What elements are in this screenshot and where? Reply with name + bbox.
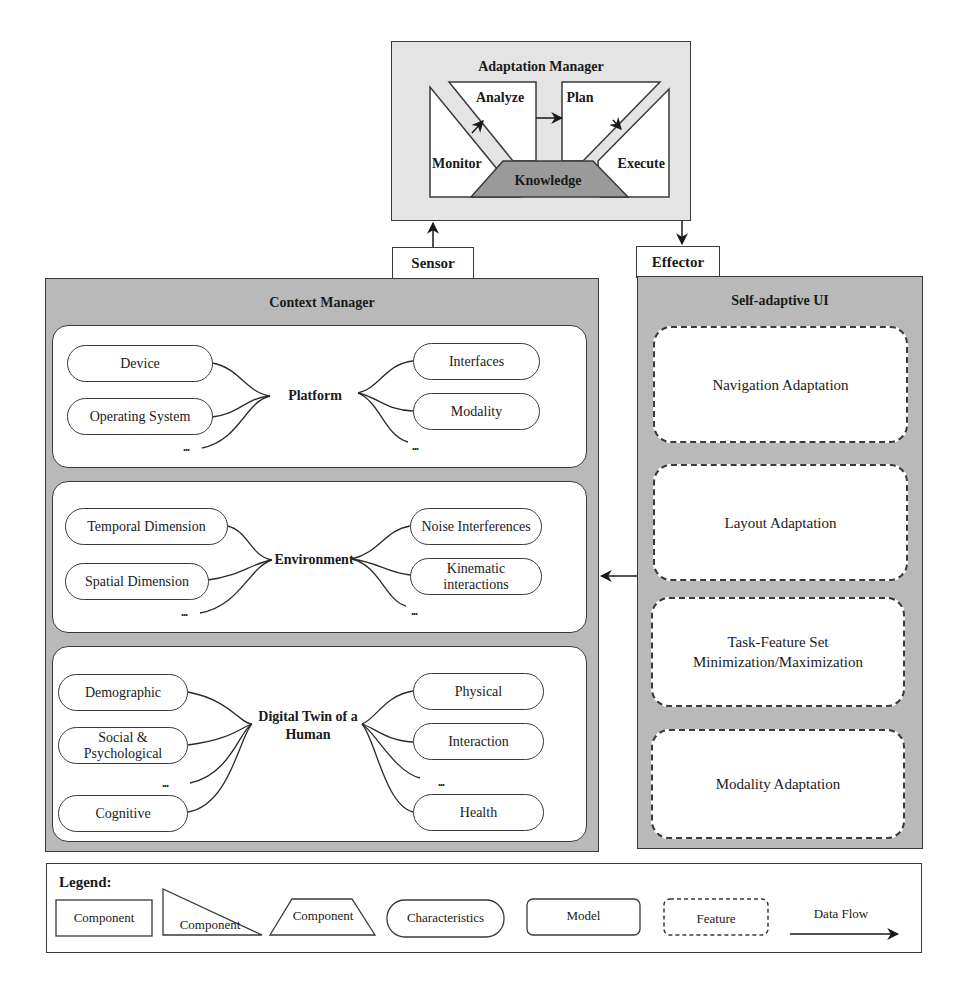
characteristic-operating-system: Operating System bbox=[67, 398, 213, 435]
digital-twin-hub: Digital Twin of a Human bbox=[254, 708, 362, 744]
legend-characteristics-label: Characteristics bbox=[387, 910, 504, 926]
characteristic-kinematic-interactions: Kinematic interactions bbox=[410, 558, 542, 595]
characteristic-interfaces: Interfaces bbox=[413, 343, 540, 380]
characteristic-temporal-dimension: Temporal Dimension bbox=[65, 508, 228, 545]
legend-component-triangle-label: Component bbox=[160, 917, 260, 933]
sensor-box: Sensor bbox=[392, 247, 474, 279]
characteristic-physical: Physical bbox=[413, 673, 544, 710]
legend-component-rect-label: Component bbox=[56, 910, 152, 926]
legend-feature-label: Feature bbox=[664, 911, 768, 927]
platform-more-left: ... bbox=[183, 440, 189, 455]
adaptation-manager-title: Adaptation Manager bbox=[478, 59, 604, 74]
monitor-label: Monitor bbox=[432, 156, 482, 171]
self-adaptive-ui-title: Self-adaptive UI bbox=[638, 293, 922, 309]
analyze-label: Analyze bbox=[476, 90, 524, 105]
context-manager-title: Context Manager bbox=[46, 295, 598, 311]
feature-layout-adaptation: Layout Adaptation bbox=[653, 464, 908, 581]
characteristic-social-psychological: Social & Psychological bbox=[58, 727, 188, 764]
platform-hub: Platform bbox=[272, 387, 358, 405]
plan-label: Plan bbox=[566, 90, 593, 105]
environment-more-right: ... bbox=[411, 604, 417, 619]
knowledge-label: Knowledge bbox=[515, 173, 582, 188]
environment-more-left: ... bbox=[181, 605, 187, 620]
effector-box: Effector bbox=[636, 246, 720, 278]
legend-component-trapezoid-label: Component bbox=[272, 908, 374, 924]
digital-twin-more-left: ... bbox=[162, 776, 168, 791]
legend-title: Legend: bbox=[59, 874, 112, 891]
characteristic-cognitive: Cognitive bbox=[58, 795, 188, 832]
characteristic-noise-interferences: Noise Interferences bbox=[410, 508, 542, 545]
execute-label: Execute bbox=[618, 156, 665, 171]
legend-model-label: Model bbox=[527, 908, 640, 924]
platform-more-right: ... bbox=[412, 439, 418, 454]
characteristic-spatial-dimension: Spatial Dimension bbox=[65, 563, 209, 600]
feature-navigation-adaptation: Navigation Adaptation bbox=[653, 326, 908, 443]
characteristic-modality: Modality bbox=[413, 393, 540, 430]
digital-twin-more-right: ... bbox=[438, 775, 444, 790]
monitor-to-analyze-arrow bbox=[472, 121, 483, 133]
characteristic-health: Health bbox=[413, 794, 544, 831]
legend: Legend: bbox=[46, 863, 922, 953]
feature-task-feature-set: Task-Feature Set Minimization/Maximizati… bbox=[651, 597, 905, 707]
characteristic-demographic: Demographic bbox=[58, 674, 188, 711]
characteristic-device: Device bbox=[67, 345, 213, 382]
legend-data-flow-label: Data Flow bbox=[796, 906, 886, 922]
feature-modality-adaptation: Modality Adaptation bbox=[651, 729, 905, 839]
characteristic-interaction: Interaction bbox=[413, 723, 544, 760]
environment-hub: Environment bbox=[274, 551, 354, 569]
